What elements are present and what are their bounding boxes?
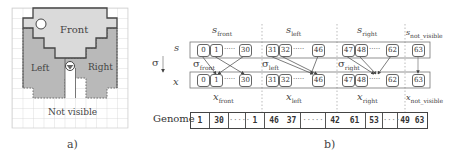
s-node: 30: [239, 44, 252, 57]
s-node: 46: [312, 44, 325, 57]
sigma-left-label: σleft: [262, 58, 279, 71]
x-node: 46: [312, 74, 325, 87]
s-left-label: sleft: [286, 24, 301, 37]
ellipsis: ·····: [293, 44, 304, 55]
x-not-visible-label: xnot_visible: [406, 93, 443, 104]
genome-cell: 1: [246, 113, 265, 128]
x-node: 63: [412, 74, 425, 87]
sigma-axis-label: σ: [152, 57, 159, 68]
ellipsis: ·····: [293, 74, 304, 85]
x-node: 48: [355, 74, 368, 87]
genome-cell: 61: [344, 113, 366, 128]
x-node: 31: [266, 74, 279, 87]
genome-label: Genome: [153, 113, 195, 124]
s-node: 31: [266, 44, 279, 57]
ellipsis: ·····: [369, 44, 380, 55]
genome-cell: 49: [398, 113, 412, 128]
x-node: 62: [386, 74, 399, 87]
x-axis-label: x: [173, 76, 179, 87]
sigma-front-label: σfront: [193, 58, 215, 71]
panel-b-caption: b): [324, 138, 335, 151]
x-node: 1: [210, 74, 223, 87]
genome-cell: ·····: [301, 113, 326, 128]
x-right-label: xright: [357, 91, 378, 104]
s-node: 63: [412, 44, 425, 57]
genome-cell: 37: [283, 113, 301, 128]
genome-cell: 1: [191, 113, 210, 128]
s-node: 32: [279, 44, 292, 57]
ellipsis: ·····: [224, 74, 235, 85]
s-not-visible-label: snot_visible: [406, 28, 443, 39]
s-front-label: sfront: [212, 24, 232, 37]
x-node: 0: [197, 74, 210, 87]
x-node: 47: [342, 74, 355, 87]
x-left-label: xleft: [286, 91, 302, 104]
genome-strip: 1 30 ····· 1 46 37 ····· 42 61 53 ····· …: [190, 112, 428, 129]
genome-cell: 42: [326, 113, 344, 128]
s-right-label: sright: [357, 24, 377, 37]
s-axis-label: s: [174, 42, 179, 53]
genome-cell: 30: [210, 113, 229, 128]
s-node: 62: [386, 44, 399, 57]
genome-cell: ·····: [383, 113, 398, 128]
genome-cell: 53: [366, 113, 383, 128]
x-node: 32: [279, 74, 292, 87]
sigma-right-label: σright: [338, 58, 360, 71]
ellipsis: ·····: [369, 74, 380, 85]
ellipsis: ·····: [224, 44, 235, 55]
genome-cell: ·····: [229, 113, 246, 128]
s-node: 1: [210, 44, 223, 57]
s-node: 0: [197, 44, 210, 57]
s-node: 48: [355, 44, 368, 57]
genome-cell: 46: [265, 113, 283, 128]
x-front-label: xfront: [213, 91, 234, 104]
x-node: 30: [239, 74, 252, 87]
genome-cell: 63: [412, 113, 427, 128]
s-node: 47: [342, 44, 355, 57]
